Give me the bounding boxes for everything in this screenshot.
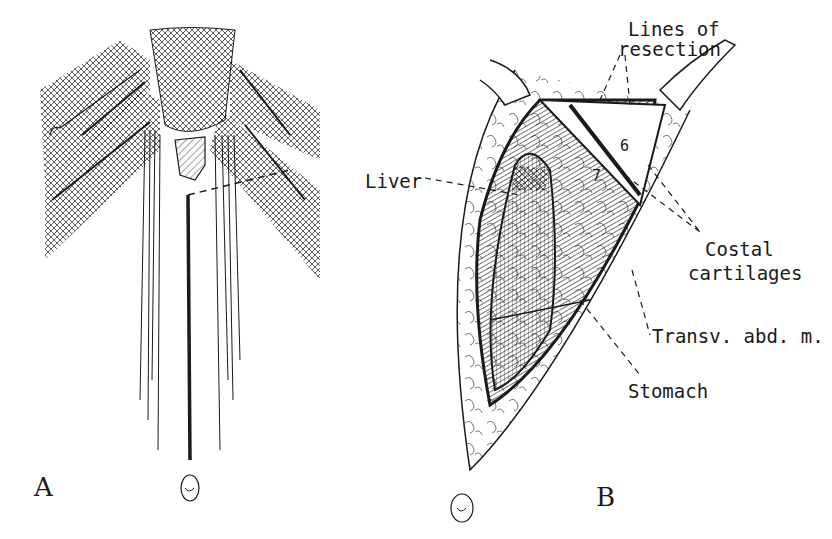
label-rib-6: 6 [620, 135, 629, 157]
surgical-illustration: Lines of resection Liver Costal cartilag… [0, 0, 832, 539]
label-costal-cartilages-line2: cartilages [688, 262, 802, 284]
label-costal-cartilages-line1: Costal [705, 238, 774, 260]
panel-letter-a: A [34, 472, 53, 502]
label-lines-of-resection-line2: resection [618, 38, 721, 60]
label-stomach: Stomach [628, 380, 708, 402]
label-liver: Liver [365, 170, 422, 192]
panel-letter-b: B [596, 482, 615, 512]
label-rib-7: 7 [592, 165, 601, 187]
label-transv-abd-m: Transv. abd. m. [652, 325, 824, 347]
label-lines-of-resection-line1: Lines of [628, 18, 720, 40]
panel-a-drawing [40, 28, 320, 502]
